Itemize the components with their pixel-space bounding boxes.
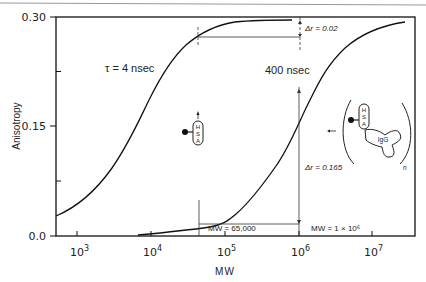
hsa-molecule-icon: H S A	[182, 111, 203, 145]
hsa-igg-complex-icon: H S A IgG n	[327, 100, 411, 171]
x-tick-label: 104	[143, 244, 162, 259]
mw-complex-label: MW = 1 × 10⁶	[311, 224, 360, 233]
arrowhead	[297, 220, 301, 224]
anisotropy-chart: 0.30 0.15 0.0 Anisotropy 103 104 105 106…	[0, 0, 426, 282]
igg-shape	[365, 129, 401, 157]
page-edge-line	[0, 3, 426, 5]
svg-text:S: S	[362, 114, 366, 120]
y-tick-label: 0.15	[22, 120, 47, 133]
svg-text:n: n	[403, 164, 407, 171]
curve-tau-4nsec	[56, 20, 292, 216]
delta-r-large-label: Δr = 0.165	[304, 163, 343, 172]
right-paren	[400, 103, 411, 164]
y-axis-title: Anisotropy	[11, 102, 22, 149]
tau-label: τ = 4 nsec	[105, 62, 155, 74]
arrowhead	[297, 89, 301, 93]
svg-text:H: H	[196, 124, 200, 130]
svg-text:A: A	[362, 121, 366, 127]
arrowhead	[298, 34, 302, 37]
x-axis-title: MW	[215, 266, 235, 277]
left-paren	[343, 100, 354, 164]
x-tick-label: 106	[291, 244, 310, 259]
slow-label: 400 nsec	[265, 64, 310, 76]
mw-hsa-label: MW = 65,000	[208, 224, 256, 233]
delta-r-small-label: Δr = 0.02	[304, 24, 338, 33]
svg-text:S: S	[196, 131, 200, 137]
y-tick-label: 0.30	[22, 11, 47, 24]
svg-text:IgG: IgG	[378, 136, 388, 144]
x-tick-label: 107	[364, 244, 383, 259]
delta-r-large-bracket	[199, 87, 299, 236]
y-tick-label: 0.0	[29, 230, 47, 243]
svg-text:H: H	[362, 107, 366, 113]
arrowhead	[298, 20, 302, 24]
x-tick-label: 103	[70, 244, 89, 259]
delta-r-small-bracket	[198, 17, 300, 50]
svg-text:A: A	[196, 138, 200, 144]
x-tick-label: 105	[217, 244, 236, 259]
